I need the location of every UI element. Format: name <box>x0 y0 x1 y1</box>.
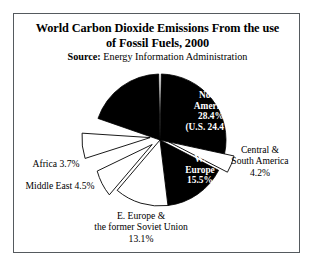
pie-label-africa-text: Africa 3.7% <box>6 158 106 169</box>
pie-value-north-america: 28.4% <box>165 111 257 122</box>
pie-label-middle-east: Middle East 4.5% <box>0 180 120 191</box>
pie-value-e-europe: 13.1% <box>66 233 216 244</box>
pie-label-central-south-america-line-1: Central & <box>212 144 308 155</box>
pie-label-central-south-america-line-2: South America <box>212 155 308 166</box>
pie-label-africa: Africa 3.7% <box>6 158 106 169</box>
pie-label-middle-east-text: Middle East 4.5% <box>0 180 120 191</box>
pie-label-north-america-line-2: America <box>165 101 257 112</box>
pie-label-e-europe-former-soviet-union: E. Europe & the former Soviet Union 13.1… <box>66 210 216 244</box>
pie-label-far-east-oceania-line-1: Far East & <box>33 100 125 111</box>
pie-chart: North America 28.4% (U.S. 24.4%) Far Eas… <box>14 14 301 254</box>
pie-value-central-south-america: 4.2% <box>212 167 308 178</box>
pie-label-far-east-oceania: Far East & Oceania 30.6% <box>33 100 125 132</box>
pie-label-north-america-line-1: North <box>165 90 257 101</box>
chart-figure-frame: World Carbon Dioxide Emissions From the … <box>13 13 300 253</box>
pie-label-far-east-oceania-line-2: Oceania <box>33 111 125 122</box>
pie-value-far-east-oceania: 30.6% <box>33 121 125 132</box>
pie-label-e-europe-line-1: E. Europe & <box>66 210 216 221</box>
pie-label-central-south-america: Central & South America 4.2% <box>212 144 308 178</box>
pie-label-e-europe-line-2: the former Soviet Union <box>66 221 216 232</box>
pie-sublabel-us-share: (U.S. 24.4%) <box>165 122 257 133</box>
pie-label-north-america: North America 28.4% (U.S. 24.4%) <box>165 90 257 132</box>
